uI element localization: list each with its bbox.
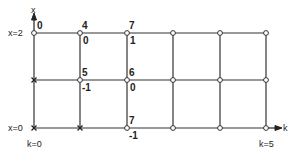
open-node-icon: [218, 126, 223, 131]
open-node-icon: [264, 126, 269, 131]
finite-difference-grid: [0, 0, 298, 157]
k-end-label: k=5: [259, 140, 274, 149]
open-node-icon: [78, 31, 83, 36]
open-node-icon: [125, 78, 130, 83]
open-node-icon: [264, 78, 269, 83]
node-2-1-value: 0: [130, 83, 136, 93]
x-axis-label: x: [31, 6, 36, 15]
x-top-boundary-label: x=2: [8, 29, 23, 38]
x-bottom-boundary-label: x=0: [8, 124, 23, 133]
open-node-icon: [171, 31, 176, 36]
open-node-icon: [32, 31, 37, 36]
grid-lines: [34, 33, 266, 128]
k-axis-arrowhead-icon: [275, 126, 282, 131]
open-node-icon: [264, 31, 269, 36]
node-1-1-value: -1: [82, 83, 91, 93]
node-2-1-order: 6: [129, 68, 135, 78]
open-node-icon: [171, 78, 176, 83]
open-node-icon: [125, 31, 130, 36]
axis-arrows: [32, 13, 283, 131]
k-axis-label: k: [283, 124, 288, 133]
node-1-1-order: 5: [82, 68, 88, 78]
node-2-0-value: 1: [130, 36, 136, 46]
k-start-label: k=0: [27, 140, 42, 149]
node-1-0-value: 0: [83, 36, 89, 46]
node-2-2-value: -1: [129, 131, 138, 141]
open-node-icon: [218, 78, 223, 83]
open-node-icon: [171, 126, 176, 131]
node-1-0-order: 4: [82, 21, 88, 31]
node-0-0-order: 0: [37, 21, 43, 31]
node-2-0-order: 7: [129, 21, 135, 31]
node-2-2-order: 7: [129, 116, 135, 126]
open-node-icon: [218, 31, 223, 36]
